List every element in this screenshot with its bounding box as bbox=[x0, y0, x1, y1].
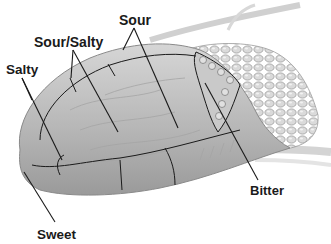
label-sour-salty: Sour/Salty bbox=[34, 35, 103, 49]
label-salty: Salty bbox=[6, 63, 38, 77]
tongue-taste-map-diagram: Sour Sour/Salty Salty Sweet Bitter bbox=[0, 0, 331, 244]
label-bitter: Bitter bbox=[250, 184, 284, 197]
label-sweet: Sweet bbox=[37, 228, 76, 242]
label-sour: Sour bbox=[119, 13, 151, 27]
